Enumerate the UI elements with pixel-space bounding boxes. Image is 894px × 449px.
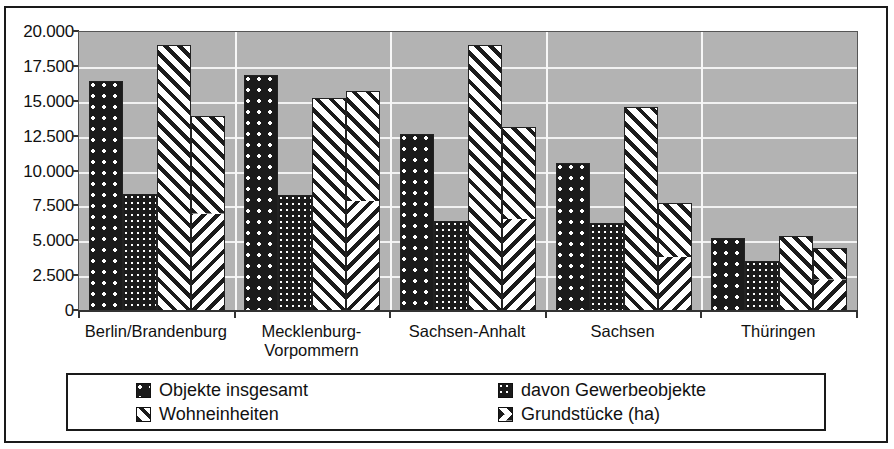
- bar: [813, 248, 847, 311]
- y-tick-label: 5.000: [2, 232, 74, 249]
- legend-entry: Wohneinheiten: [136, 405, 279, 423]
- x-tick-mark: [700, 310, 702, 318]
- bar: [624, 107, 658, 311]
- x-axis-category-label: Sachsen-Anhalt: [389, 322, 545, 341]
- bar: [658, 203, 692, 311]
- x-tick-mark: [234, 310, 236, 318]
- x-tick-mark: [856, 310, 858, 318]
- x-axis-category-label: Sachsen: [545, 322, 701, 341]
- bar: [502, 127, 536, 311]
- legend-label: davon Gewerbeobjekte: [521, 381, 706, 399]
- bar: [779, 236, 813, 311]
- bar: [191, 116, 225, 311]
- bar: [434, 221, 468, 311]
- legend-entry: Grundstücke (ha): [498, 405, 660, 423]
- plot-area: [78, 31, 858, 312]
- y-tick-label: 12.500: [2, 127, 74, 144]
- legend-entry: Objekte insgesamt: [136, 381, 308, 399]
- legend-label: Wohneinheiten: [159, 405, 279, 423]
- y-axis: 20.00017.50015.00012.50010.0007.5005.000…: [0, 0, 74, 330]
- x-axis-category-label-line: Berlin/Brandenburg: [78, 322, 234, 341]
- x-axis-category-label-line: Sachsen: [545, 322, 701, 341]
- x-tick-mark: [78, 310, 80, 318]
- legend-entry: davon Gewerbeobjekte: [498, 381, 706, 399]
- legend-swatch-icon: [498, 383, 513, 398]
- bar: [123, 194, 157, 311]
- x-axis-category-label-line: Thüringen: [700, 322, 856, 341]
- y-tick-label: 15.000: [2, 92, 74, 109]
- bar: [157, 45, 191, 311]
- x-axis-labels: Berlin/BrandenburgMecklenburg-Vorpommern…: [78, 322, 857, 370]
- x-axis-category-label-line: Mecklenburg-: [234, 322, 390, 341]
- x-tick-mark: [389, 310, 391, 318]
- bar: [711, 238, 745, 311]
- legend-label: Objekte insgesamt: [159, 381, 308, 399]
- legend-swatch-icon: [498, 407, 513, 422]
- y-tick-label: 10.000: [2, 162, 74, 179]
- y-tick-label: 17.500: [2, 57, 74, 74]
- group-separator-gridline: [390, 32, 392, 311]
- bar: [468, 45, 502, 311]
- legend-swatch-icon: [136, 407, 151, 422]
- legend-swatch-icon: [136, 383, 151, 398]
- bar: [244, 75, 278, 311]
- bar: [89, 81, 123, 311]
- group-separator-gridline: [701, 32, 703, 311]
- group-separator-gridline: [235, 32, 237, 311]
- bar: [346, 91, 380, 311]
- group-separator-gridline: [546, 32, 548, 311]
- bar: [556, 163, 590, 311]
- y-tick-label: 2.500: [2, 267, 74, 284]
- bar: [590, 223, 624, 311]
- bar: [745, 261, 779, 311]
- x-axis-category-label: Mecklenburg-Vorpommern: [234, 322, 390, 360]
- bar: [400, 134, 434, 311]
- x-axis-category-label-line: Sachsen-Anhalt: [389, 322, 545, 341]
- y-tick-label: 7.500: [2, 197, 74, 214]
- x-axis-category-label: Berlin/Brandenburg: [78, 322, 234, 341]
- y-tick-label: 0: [2, 302, 74, 319]
- y-tick-label: 20.000: [2, 23, 74, 40]
- legend: Objekte insgesamtdavon GewerbeobjekteWoh…: [66, 373, 826, 431]
- bar: [312, 98, 346, 311]
- x-axis-category-label: Thüringen: [700, 322, 856, 341]
- legend-label: Grundstücke (ha): [521, 405, 660, 423]
- x-tick-mark: [545, 310, 547, 318]
- x-axis-line: [78, 310, 857, 312]
- x-axis-category-label-line: Vorpommern: [234, 341, 390, 360]
- bar-chart: 20.00017.50015.00012.50010.0007.5005.000…: [0, 0, 894, 370]
- chart-screenshot: 20.00017.50015.00012.50010.0007.5005.000…: [0, 0, 894, 449]
- bar: [278, 195, 312, 311]
